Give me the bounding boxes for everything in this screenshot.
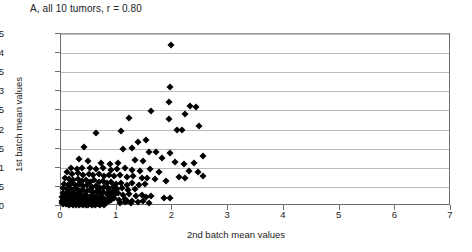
x-tick-mark: [450, 205, 451, 210]
x-tick-mark: [171, 205, 172, 210]
x-tick-label: 6: [392, 209, 397, 220]
plot-area: [60, 33, 450, 205]
data-point: [190, 160, 197, 167]
data-point: [99, 164, 106, 171]
y-tick-label: 1.5: [0, 142, 4, 153]
x-tick-mark: [116, 205, 117, 210]
data-point: [200, 173, 207, 180]
gridline: [61, 110, 449, 111]
x-tick-label: 2: [169, 209, 174, 220]
data-point: [166, 150, 173, 157]
data-point: [125, 115, 132, 122]
data-point: [166, 83, 173, 90]
data-point: [181, 111, 188, 118]
scatter-plot-figure: A, all 10 tumors, r = 0.80 1st batch mea…: [0, 0, 472, 252]
gridline: [61, 34, 449, 35]
data-point: [129, 144, 136, 151]
x-tick-label: 0: [57, 209, 62, 220]
x-tick-mark: [60, 205, 61, 210]
data-point: [200, 152, 207, 159]
data-point: [165, 98, 172, 105]
gridline: [61, 53, 449, 54]
data-point: [151, 176, 158, 183]
gridline: [61, 72, 449, 73]
data-point: [148, 192, 155, 199]
data-point: [140, 157, 147, 164]
data-point: [165, 115, 172, 122]
x-tick-label: 7: [447, 209, 452, 220]
data-point: [142, 137, 149, 144]
data-point: [159, 155, 166, 162]
x-tick-label: 5: [336, 209, 341, 220]
data-point: [76, 156, 83, 163]
data-point: [131, 157, 138, 164]
x-tick-label: 3: [224, 209, 229, 220]
data-point: [84, 157, 91, 164]
data-point: [172, 158, 179, 165]
x-tick-mark: [394, 205, 395, 210]
x-tick-label: 4: [280, 209, 285, 220]
x-tick-mark: [339, 205, 340, 210]
data-point: [122, 164, 129, 171]
y-tick-label: 0: [0, 200, 4, 211]
data-point: [196, 122, 203, 129]
y-tick-label: 3.5: [0, 66, 4, 77]
y-tick-label: 3: [0, 85, 4, 96]
y-tick-label: 2: [0, 123, 4, 134]
data-point: [155, 168, 162, 175]
y-tick-label: 4: [0, 47, 4, 58]
x-tick-label: 1: [113, 209, 118, 220]
data-point: [116, 172, 123, 179]
data-point: [148, 108, 155, 115]
data-point: [152, 149, 159, 156]
data-point: [162, 177, 169, 184]
x-tick-mark: [227, 205, 228, 210]
data-point: [145, 199, 152, 206]
data-point: [166, 195, 173, 202]
data-point: [120, 146, 127, 153]
data-point: [181, 174, 188, 181]
data-point: [180, 160, 187, 167]
y-tick-label: 2.5: [0, 104, 4, 115]
y-axis-tick-labels: 00.511.522.533.544.5: [0, 0, 60, 252]
y-tick-label: 4.5: [0, 28, 4, 39]
gridline: [61, 91, 449, 92]
data-point: [134, 138, 141, 145]
y-tick-label: 0.5: [0, 180, 4, 191]
x-axis-title: 2nd batch mean values: [0, 229, 472, 240]
data-point: [179, 126, 186, 133]
data-point: [168, 42, 175, 49]
x-tick-mark: [283, 205, 284, 210]
y-tick-label: 1: [0, 161, 4, 172]
